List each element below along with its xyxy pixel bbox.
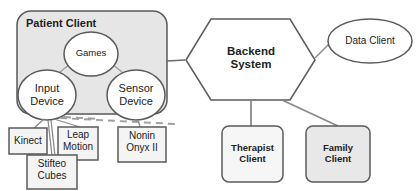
- sensor-device-label: Sensor Device: [107, 82, 165, 107]
- input-device-label: Input Device: [18, 82, 76, 107]
- stifteo-cubes-label: Stifteo Cubes: [27, 158, 77, 181]
- leap-motion-label: Leap Motion: [58, 129, 98, 152]
- edge-backend-family: [282, 100, 338, 126]
- data-client-label: Data Client: [330, 35, 410, 47]
- therapist-client-label: Therapist Client: [222, 143, 283, 165]
- edge-dashed: [60, 118, 175, 124]
- edge-backend-data: [315, 43, 330, 58]
- games-label: Games: [64, 48, 118, 59]
- kinect-label: Kinect: [9, 135, 47, 147]
- edge-dashed-2: [64, 117, 100, 119]
- family-client-label: Family Client: [306, 143, 370, 165]
- backend-system-label: Backend System: [216, 45, 286, 71]
- patient-client-label: Patient Client: [26, 17, 96, 30]
- nonin-onyx-label: Nonin Onyx II: [118, 130, 166, 153]
- edge-patient-backend: [167, 60, 185, 61]
- edge-input-leap: [54, 119, 80, 127]
